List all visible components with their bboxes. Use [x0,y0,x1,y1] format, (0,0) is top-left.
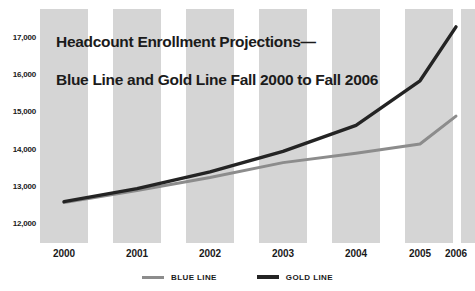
x-tick-label-2002: 2002 [199,248,221,260]
x-tick-label-2006: 2006 [445,248,467,260]
x-tick-label-2005: 2005 [409,248,431,260]
x-axis-labels: 2000 2001 2002 2003 2004 2005 2006 [0,248,475,264]
legend-swatch-blue-line [142,276,164,279]
legend-label-blue-line: BLUE LINE [171,273,217,282]
x-tick-label-2003: 2003 [272,248,294,260]
chart-figure: 17,000 16,000 15,000 14,000 13,000 12,00… [0,0,475,291]
x-tick-label-2004: 2004 [345,248,367,260]
legend-swatch-gold-line [257,275,279,279]
chart-legend: BLUE LINE GOLD LINE [0,270,475,284]
legend-item-gold-line: GOLD LINE [257,273,333,282]
chart-title: Headcount Enrollment Projections— Blue L… [56,13,406,108]
chart-title-line-2: Blue Line and Gold Line Fall 2000 to Fal… [56,70,406,89]
x-tick-label-2000: 2000 [53,248,75,260]
chart-title-line-1: Headcount Enrollment Projections— [56,32,406,51]
x-tick-label-2001: 2001 [126,248,148,260]
legend-label-gold-line: GOLD LINE [286,273,333,282]
legend-item-blue-line: BLUE LINE [142,273,217,282]
